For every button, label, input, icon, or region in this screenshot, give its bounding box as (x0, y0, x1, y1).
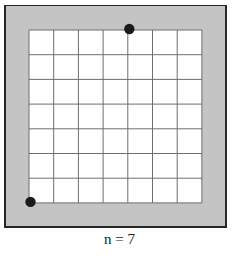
figure-caption: n = 7 (0, 231, 239, 248)
bottom-left-dot (25, 197, 35, 207)
grid-board (0, 0, 239, 240)
grid-background (29, 30, 202, 203)
top-dot (124, 24, 134, 34)
